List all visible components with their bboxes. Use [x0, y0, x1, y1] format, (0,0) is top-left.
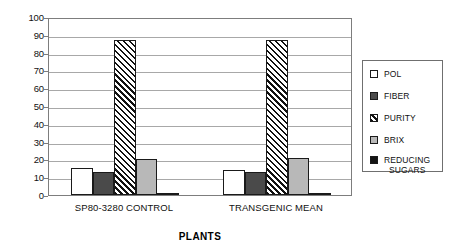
y-axis-tick-label: 80: [4, 49, 44, 59]
legend-item[interactable]: PURITY: [370, 113, 416, 123]
bar: [245, 172, 267, 195]
bar: [223, 170, 245, 195]
y-axis-tick-label: 90: [4, 31, 44, 41]
legend-item[interactable]: FIBER: [370, 91, 410, 101]
gridline: [49, 144, 351, 145]
x-axis-category-label: SP80-3280 CONTROL: [48, 202, 200, 213]
legend-swatch-icon: [370, 70, 378, 78]
legend-item[interactable]: POL: [370, 69, 401, 79]
y-axis-tick-label: 100: [4, 13, 44, 23]
gridline: [49, 108, 351, 109]
y-axis-tick-label: 70: [4, 66, 44, 76]
legend-swatch-icon: [370, 156, 378, 164]
bar: [309, 193, 331, 195]
legend-swatch-icon: [370, 114, 378, 122]
bar: [136, 159, 158, 195]
y-axis-tick-label: 60: [4, 84, 44, 94]
bar: [114, 40, 136, 195]
legend-item[interactable]: BRIX: [370, 135, 404, 145]
bar: [157, 193, 179, 195]
legend-label: FIBER: [384, 91, 410, 101]
gridline: [49, 72, 351, 73]
bar: [266, 40, 288, 195]
gridline: [49, 126, 351, 127]
y-axis-tick-label: 0: [4, 191, 44, 201]
gridline: [49, 37, 351, 38]
y-axis-tick-mark: [44, 196, 48, 197]
legend-label: POL: [384, 69, 401, 79]
bar: [93, 172, 115, 195]
y-axis-tick-label: 40: [4, 120, 44, 130]
x-axis-title: PLANTS: [48, 231, 352, 242]
y-axis: 1009080706050403020100: [0, 18, 44, 196]
gridline: [49, 55, 351, 56]
legend-item[interactable]: REDUCING SUGARS: [370, 155, 442, 175]
plot-area: [48, 18, 352, 196]
bar: [288, 158, 310, 195]
legend-label: BRIX: [384, 135, 404, 145]
legend-swatch-icon: [370, 92, 378, 100]
legend-label: REDUCING SUGARS: [384, 155, 442, 175]
bar-chart: 1009080706050403020100 SP80-3280 CONTROL…: [0, 0, 464, 251]
y-axis-tick-label: 50: [4, 102, 44, 112]
legend-swatch-icon: [370, 136, 378, 144]
y-axis-tick-label: 30: [4, 138, 44, 148]
y-axis-tick-label: 10: [4, 173, 44, 183]
gridline: [49, 90, 351, 91]
chart-legend: POLFIBERPURITYBRIXREDUCING SUGARS: [362, 60, 443, 172]
legend-label: PURITY: [384, 113, 416, 123]
bar: [71, 168, 93, 195]
y-axis-tick-label: 20: [4, 155, 44, 165]
x-axis-category-label: TRANSGENIC MEAN: [200, 202, 352, 213]
